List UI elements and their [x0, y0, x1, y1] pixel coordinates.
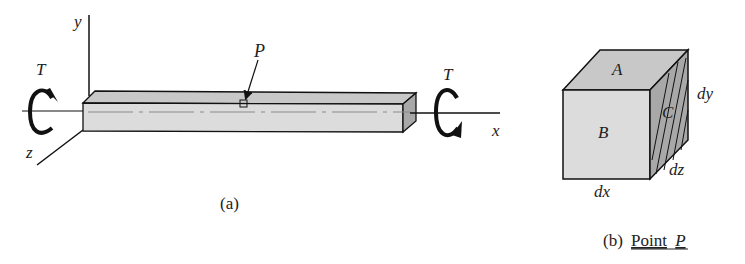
figure-b-caption: (b) Point P	[603, 231, 686, 250]
dim-dx-label: dx	[594, 182, 611, 201]
figure-b-caption-prefix: (b)	[603, 231, 623, 250]
face-a-label: A	[611, 60, 623, 79]
figure-b-caption-point: P	[674, 231, 685, 250]
face-b-label: B	[598, 123, 609, 142]
diagram-canvas: y z P T x T (a)	[0, 0, 745, 264]
torque-right-label: T	[443, 65, 454, 84]
point-p-label: P	[253, 41, 265, 61]
z-axis	[37, 130, 83, 165]
x-axis-label: x	[491, 121, 500, 140]
figure-b: A B C dy dz dx (b) Point P	[563, 50, 714, 250]
face-c-label: C	[662, 103, 674, 122]
torque-left-label: T	[36, 60, 47, 79]
dim-dy-label: dy	[697, 84, 714, 103]
figure-a-caption: (a)	[220, 194, 239, 213]
y-axis-label: y	[72, 12, 82, 31]
torque-right-icon	[436, 90, 462, 138]
figure-a: y z P T x T (a)	[22, 12, 500, 213]
figure-b-caption-main: Point	[631, 231, 667, 250]
dim-dz-label: dz	[669, 160, 685, 179]
bar-top-face	[83, 91, 416, 104]
z-axis-label: z	[25, 143, 33, 162]
torque-left-icon	[30, 88, 58, 133]
